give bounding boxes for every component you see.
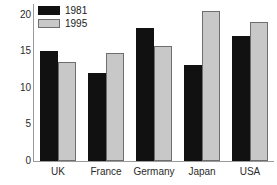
y-tick-label: 15 xyxy=(3,46,31,56)
bar-uk-1995 xyxy=(58,62,76,161)
legend-swatch-icon xyxy=(38,6,60,15)
bar-group xyxy=(85,4,127,161)
x-axis-tick-labels: UKFranceGermanyJapanUSA xyxy=(34,165,274,183)
x-tick-label: France xyxy=(85,165,127,183)
bar-chart: 05101520 UKFranceGermanyJapanUSA 1981199… xyxy=(0,0,277,185)
legend-item-1995: 1995 xyxy=(38,18,87,29)
bar-japan-1995 xyxy=(202,11,220,161)
bar-group xyxy=(229,4,271,161)
bar-group xyxy=(181,4,223,161)
bar-france-1981 xyxy=(88,73,106,161)
chart-legend: 19811995 xyxy=(38,5,87,29)
y-axis-tick-labels: 05101520 xyxy=(0,0,31,185)
y-tick-label: 20 xyxy=(3,10,31,20)
bar-germany-1995 xyxy=(154,46,172,161)
bar-group xyxy=(133,4,175,161)
legend-item-1981: 1981 xyxy=(38,5,87,16)
x-tick-label: Japan xyxy=(181,165,223,183)
bar-germany-1981 xyxy=(136,28,154,161)
y-tick-label: 5 xyxy=(3,119,31,129)
bar-france-1995 xyxy=(106,53,124,161)
bar-japan-1981 xyxy=(184,65,202,161)
legend-label: 1995 xyxy=(65,19,87,29)
x-tick-label: UK xyxy=(37,165,79,183)
y-tick-label: 10 xyxy=(3,83,31,93)
bar-usa-1981 xyxy=(232,36,250,161)
bar-usa-1995 xyxy=(250,22,268,161)
y-tick-label: 0 xyxy=(3,156,31,166)
legend-label: 1981 xyxy=(65,6,87,16)
x-axis-line xyxy=(33,161,274,162)
x-tick-label: Germany xyxy=(133,165,175,183)
legend-swatch-icon xyxy=(38,19,60,28)
bar-uk-1981 xyxy=(40,51,58,161)
x-tick-label: USA xyxy=(229,165,271,183)
